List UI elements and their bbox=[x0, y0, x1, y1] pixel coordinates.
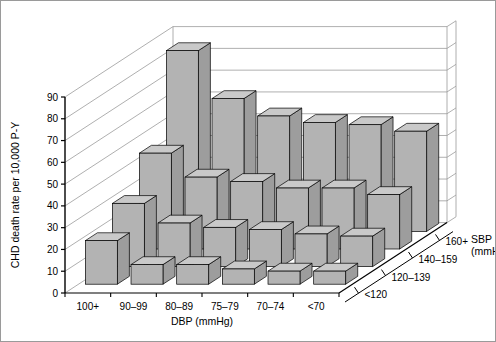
y-axis-tick-label: 0 bbox=[52, 288, 58, 299]
rightwall-tick bbox=[447, 43, 456, 49]
rightwall-tick bbox=[447, 195, 456, 201]
figure-frame: 0102030405060708090CHD death rate per 10… bbox=[0, 0, 496, 342]
rightwall-tick bbox=[447, 217, 456, 223]
z-axis-category-label: 160+ bbox=[446, 236, 469, 247]
bar-front-face bbox=[314, 271, 346, 284]
rightwall-tick bbox=[447, 151, 456, 157]
bar-9099-120 bbox=[131, 257, 175, 284]
bar-front-face bbox=[131, 265, 163, 285]
y-axis-tick-label: 20 bbox=[47, 244, 59, 255]
leftwall-gridline bbox=[65, 27, 173, 97]
bar-7074-120139 bbox=[295, 226, 339, 267]
z-axis-tick bbox=[382, 270, 386, 276]
x-axis-category-label: 70–74 bbox=[257, 301, 285, 312]
x-axis-category-label: 75–79 bbox=[211, 301, 239, 312]
y-axis-tick-label: 60 bbox=[47, 157, 59, 168]
x-axis-category-label: 90–99 bbox=[120, 301, 148, 312]
bar-100-120 bbox=[85, 233, 129, 284]
y-axis-tick-label: 50 bbox=[47, 179, 59, 190]
leftwall-gridline bbox=[65, 48, 173, 118]
z-axis-category-label: 140–159 bbox=[419, 254, 458, 265]
bar-front-face bbox=[222, 269, 254, 284]
bar-front-face bbox=[85, 241, 117, 285]
bar-side-face bbox=[117, 233, 129, 284]
chd-3d-bar-chart: 0102030405060708090CHD death rate per 10… bbox=[1, 1, 495, 341]
bar-side-face bbox=[144, 196, 156, 267]
bar-front-face bbox=[341, 236, 373, 266]
x-axis-category-label: <70 bbox=[308, 301, 325, 312]
y-axis-tick-label: 30 bbox=[47, 222, 59, 233]
z-axis-title-line1: SBP bbox=[471, 233, 492, 245]
z-axis-tick bbox=[409, 252, 413, 258]
bars-layer bbox=[85, 43, 438, 284]
y-axis-tick-label: 10 bbox=[47, 266, 59, 277]
z-axis-category-label: <120 bbox=[365, 289, 388, 300]
rightwall-tick bbox=[447, 86, 456, 92]
rightwall-tick bbox=[447, 173, 456, 179]
rightwall-tick bbox=[447, 108, 456, 114]
bar-70-120139 bbox=[341, 228, 385, 266]
bar-side-face bbox=[427, 123, 439, 231]
bar-front-face bbox=[177, 265, 209, 285]
bar-side-face bbox=[400, 187, 412, 249]
z-axis-category-label: 120–139 bbox=[392, 272, 431, 283]
z-axis-title-line2: (mmHg) bbox=[471, 245, 495, 257]
bar-front-face bbox=[295, 234, 327, 267]
x-axis-category-label: 80–89 bbox=[165, 301, 193, 312]
bar-7579-120 bbox=[222, 261, 266, 284]
y-axis-tick-label: 80 bbox=[47, 113, 59, 124]
x-axis-title: DBP (mmHg) bbox=[171, 315, 233, 327]
rightwall-tick bbox=[447, 21, 456, 27]
x-axis-category-label: 100+ bbox=[77, 301, 100, 312]
rightwall-tick bbox=[447, 64, 456, 70]
y-axis-title: CHD death rate per 10,000 P-Y bbox=[9, 122, 21, 269]
z-axis-tick bbox=[355, 287, 359, 293]
y-axis-tick-label: 90 bbox=[47, 92, 59, 103]
y-axis-tick-label: 70 bbox=[47, 135, 59, 146]
bar-8089-120 bbox=[177, 257, 221, 284]
z-axis-tick bbox=[436, 234, 440, 240]
bar-front-face bbox=[268, 271, 300, 284]
y-axis-tick-label: 40 bbox=[47, 200, 59, 211]
bar-7579-120139 bbox=[249, 222, 293, 267]
leftwall-gridline bbox=[65, 70, 173, 140]
rightwall-tick bbox=[447, 130, 456, 136]
